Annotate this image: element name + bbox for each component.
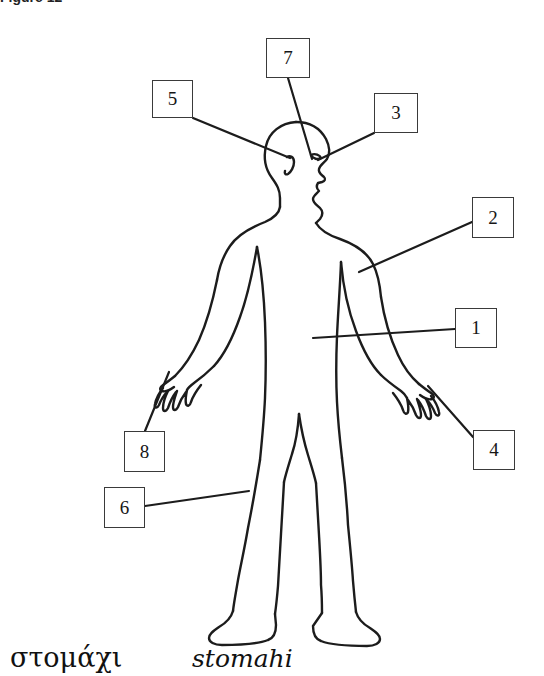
callout-label-3: 3 xyxy=(391,102,401,124)
callout-box-7[interactable]: 7 xyxy=(266,38,310,78)
right-leg-inner xyxy=(316,483,322,613)
callout-box-2[interactable]: 2 xyxy=(472,197,514,238)
leader-line-7 xyxy=(288,78,312,159)
callout-box-4[interactable]: 4 xyxy=(473,430,515,470)
vocabulary-greek-word: στομάχι xyxy=(10,640,122,676)
callout-label-7: 7 xyxy=(283,47,293,69)
figure-page: Figure 12 xyxy=(0,0,544,676)
vocabulary-transliteration: stomahi xyxy=(192,641,293,676)
vocabulary-row: στομάχι stomahi xyxy=(0,640,544,676)
leader-line-1 xyxy=(313,329,455,338)
torso-left-side xyxy=(257,247,266,460)
head-outline xyxy=(265,122,296,207)
callout-box-5[interactable]: 5 xyxy=(152,80,193,118)
left-leg-outer xyxy=(233,460,260,611)
leader-line-6 xyxy=(145,491,249,506)
leader-line-5 xyxy=(193,118,290,158)
callout-box-1[interactable]: 1 xyxy=(455,308,497,348)
right-arm-inner xyxy=(341,262,381,375)
inner-left-leg xyxy=(299,414,316,483)
left-leg-inner xyxy=(275,482,284,614)
neck-and-left-shoulder xyxy=(217,207,280,280)
ear-detail xyxy=(285,156,294,174)
callout-label-5: 5 xyxy=(168,88,178,110)
right-hand-fingers xyxy=(393,393,439,419)
callout-box-8[interactable]: 8 xyxy=(124,431,165,472)
callout-box-6[interactable]: 6 xyxy=(104,487,145,528)
right-leg-outer xyxy=(342,458,356,612)
leader-lines xyxy=(145,78,473,506)
crotch-inner-line xyxy=(284,414,299,482)
neck-and-right-shoulder xyxy=(316,223,381,297)
face-profile xyxy=(296,122,329,223)
callout-label-8: 8 xyxy=(140,441,150,463)
callout-box-3[interactable]: 3 xyxy=(374,93,418,133)
right-arm-outer xyxy=(381,297,419,384)
callout-label-1: 1 xyxy=(471,317,481,339)
torso-right-side xyxy=(336,262,342,458)
leader-line-3 xyxy=(318,133,374,160)
leader-line-2 xyxy=(359,222,472,272)
callout-label-4: 4 xyxy=(489,439,499,461)
leader-line-8 xyxy=(145,372,169,431)
callout-label-6: 6 xyxy=(120,497,130,519)
left-arm-outer xyxy=(175,280,217,376)
callout-label-2: 2 xyxy=(488,207,498,229)
